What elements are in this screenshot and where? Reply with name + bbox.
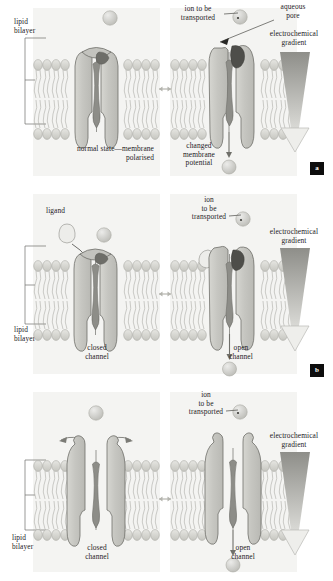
panel-b-ion-leader [229,211,245,221]
panel-a-right-caption: changed membrane potential [176,142,222,168]
stretch-arrows [61,437,131,440]
panel-b-ligand-label: ligand [46,207,86,216]
channel-protein-closed [75,48,118,149]
ion-sphere-exited [223,362,237,376]
panel-b-badge: b [310,364,324,377]
panel-a-left-caption: normal state—membrane polarised [42,145,154,162]
ion-sphere [89,406,103,420]
ion-sphere [97,228,111,242]
panel-b-left-stage [33,206,160,366]
panel-c-ion-leader [226,406,242,416]
panel-b: lipid bilayer [0,186,333,382]
panel-a-electrochemical-gradient-arrow [277,50,319,156]
panel-b-right-caption: open channel [217,344,265,361]
panel-a-badge: a [310,162,324,175]
panel-a-ion-leader [224,10,242,20]
panel-a-electrochemical-gradient-label: electrochemical gradient [258,30,330,47]
panel-c-right-caption: open channel [219,544,267,561]
panel-c-left-caption: closed channel [73,544,121,561]
panel-a: lipid bilayer [0,0,333,186]
panel-b-left-caption: closed channel [73,344,121,361]
panel-b-electrochemical-gradient-arrow [277,246,319,356]
panel-c-electrochemical-gradient-arrow [277,450,319,560]
ion-sphere-exited [222,160,236,174]
channel-protein-closed [74,249,117,351]
panel-a-left-stage [33,8,160,158]
panel-b-electrochemical-gradient-label: electrochemical gradient [258,228,330,245]
ligand-shape [59,224,75,243]
panel-c: lipid bilayer [0,382,333,581]
channel-protein-closed [67,436,125,547]
ion-sphere [103,11,117,25]
panel-c-electrochemical-gradient-label: electrochemical gradient [258,432,330,449]
